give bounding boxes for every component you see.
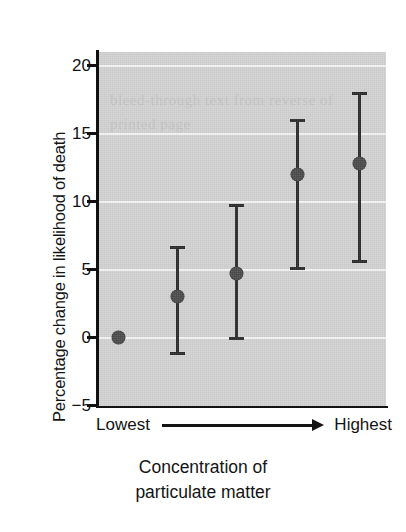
x-axis-title-line-2: particulate matter [0,480,406,505]
y-tick-label-5: 5 [57,261,91,278]
gridline-20 [99,65,386,67]
errorbar-cap-lower-4 [290,267,305,270]
data-marker-3 [230,267,243,280]
plot-area [99,52,386,406]
errorbar-cap-lower-3 [229,337,244,340]
errorbar-cap-upper-3 [229,204,244,207]
errorbar-cap-upper-5 [352,92,367,95]
y-tick-label-0: 0 [57,329,91,346]
errorbar-cap-lower-5 [352,260,367,263]
x-axis-lowest-label: Lowest [96,415,150,435]
y-tick-label-10: 10 [57,193,91,210]
errorbar-cap-upper-2 [170,246,185,249]
y-tick-mark-20 [87,64,97,67]
arrow-head [312,419,324,431]
y-tick-mark-0 [87,336,97,339]
y-tick-mark-10 [87,200,97,203]
gridline-5 [99,269,386,271]
data-marker-5 [353,157,366,170]
data-marker-4 [291,168,304,181]
rightwards-arrow-icon [160,419,324,431]
arrow-shaft [162,424,315,427]
data-marker-2 [171,290,184,303]
errorbar-cap-lower-2 [170,352,185,355]
x-axis-range-annotation: Lowest Highest [96,410,392,440]
chart-figure: Percentage change in likelihood of death… [0,0,406,532]
x-axis-title: Concentration of particulate matter [0,455,406,505]
y-tick-label-minus5: −5 [57,397,91,414]
y-tick-mark-5 [87,268,97,271]
data-marker-1 [112,331,125,344]
y-tick-label-20: 20 [57,57,91,74]
gridline-10 [99,201,386,203]
y-axis-line [96,50,99,408]
errorbar-whisker-4 [296,119,299,269]
x-axis-title-line-1: Concentration of [139,457,267,477]
y-tick-mark-15 [87,132,97,135]
errorbar-cap-upper-4 [290,119,305,122]
x-axis-highest-label: Highest [334,415,392,435]
y-axis-tick-labels: 20 15 10 5 0 −5 [57,0,91,532]
x-axis-line [96,406,388,408]
gridline-15 [99,133,386,135]
y-tick-label-15: 15 [57,125,91,142]
y-tick-mark-minus5 [87,404,97,407]
errorbar-whisker-5 [358,92,361,262]
